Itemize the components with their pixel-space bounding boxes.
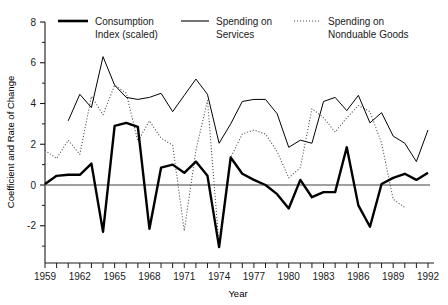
chart-svg: -202468 19591962196519681971197419771980… (0, 0, 448, 305)
x-axis-tick-labels: 1959196219651968197119741977198019831986… (34, 271, 440, 282)
y-tick-label: 2 (30, 139, 36, 150)
y-tick-label: -2 (27, 220, 36, 231)
legend-label-consumption-index-line2: Index (scaled) (95, 29, 158, 40)
x-tick-label: 1959 (34, 271, 57, 282)
chart-legend: Consumption Index (scaled) Spending on S… (58, 16, 409, 40)
y-tick-label: 6 (30, 57, 36, 68)
y-tick-label: 0 (30, 180, 36, 191)
y-axis-ticks (40, 22, 45, 246)
x-tick-label: 1968 (138, 271, 161, 282)
legend-label-services-line1: Spending on (216, 16, 272, 27)
legend-label-services-line2: Services (216, 29, 254, 40)
x-axis-title: Year (228, 288, 247, 299)
y-axis-title: Coefficient and Rate of Change (5, 76, 16, 208)
chart-figure: -202468 19591962196519681971197419771980… (0, 0, 448, 305)
y-axis-tick-labels: -202468 (27, 17, 36, 232)
x-tick-label: 1980 (278, 271, 301, 282)
x-tick-label: 1989 (382, 271, 405, 282)
x-tick-label: 1986 (347, 271, 370, 282)
y-tick-label: 4 (30, 98, 36, 109)
x-tick-label: 1974 (208, 271, 231, 282)
legend-label-consumption-index-line1: Consumption (95, 16, 154, 27)
x-tick-label: 1992 (417, 271, 440, 282)
series-line-services (68, 57, 428, 162)
legend-label-nondurable-goods-line2: Nonduable Goods (328, 29, 409, 40)
x-axis-ticks (45, 263, 428, 268)
x-tick-label: 1983 (312, 271, 335, 282)
x-tick-label: 1962 (69, 271, 92, 282)
legend-label-nondurable-goods-line1: Spending on (328, 16, 384, 27)
x-tick-label: 1977 (243, 271, 266, 282)
y-tick-label: 8 (30, 17, 36, 28)
series-group (45, 57, 428, 248)
x-tick-label: 1965 (104, 271, 127, 282)
x-tick-label: 1971 (173, 271, 196, 282)
